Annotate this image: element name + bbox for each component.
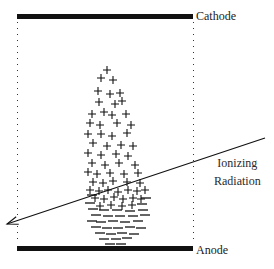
radiation-label-line1: Ionizing <box>214 154 261 172</box>
positive-charge-icon <box>108 132 116 140</box>
positive-charge-icon <box>110 193 118 201</box>
positive-charge-icon <box>128 201 136 209</box>
positive-charge-icon <box>89 178 97 186</box>
positive-charge-icon <box>94 87 102 95</box>
positive-charge-icon <box>84 168 92 176</box>
positive-charge-icon <box>113 119 121 127</box>
positive-charge-icon <box>106 90 114 98</box>
positive-charge-icon <box>96 121 104 129</box>
positive-charge-icon <box>141 186 149 194</box>
positive-charge-icon <box>129 194 137 202</box>
positive-charge-icon <box>137 195 145 203</box>
positive-charge-icon <box>116 89 124 97</box>
positive-charge-icon <box>89 139 97 147</box>
anode-label: Anode <box>196 244 228 256</box>
positive-charge-icon <box>123 129 131 137</box>
positive-charge-icon <box>133 187 141 195</box>
positive-charge-icon <box>131 161 139 169</box>
positive-charge-icon <box>99 179 107 187</box>
positive-charge-icon <box>93 170 101 178</box>
positive-charge-icon <box>95 98 103 106</box>
anode-plate <box>17 246 193 251</box>
positive-charge-icon <box>103 142 111 150</box>
positive-charge-icon <box>106 169 114 177</box>
ionization-chamber-diagram: Cathode Anode Ionizing Radiation <box>0 0 274 269</box>
positive-charge-icon <box>109 177 117 185</box>
positive-ion-cloud <box>84 66 149 210</box>
radiation-label-line2: Radiation <box>214 172 261 190</box>
positive-charge-icon <box>118 97 126 105</box>
positive-charge-icon <box>117 141 125 149</box>
positive-charge-icon <box>97 74 105 82</box>
positive-charge-icon <box>129 142 137 150</box>
cathode-plate <box>17 14 193 19</box>
positive-charge-icon <box>122 110 130 118</box>
positive-charge-icon <box>84 149 92 157</box>
positive-charge-icon <box>124 152 132 160</box>
positive-charge-icon <box>84 130 92 138</box>
positive-charge-icon <box>108 111 116 119</box>
positive-charge-icon <box>134 169 142 177</box>
positive-charge-icon <box>124 186 132 194</box>
positive-charge-icon <box>114 188 122 196</box>
positive-charge-icon <box>111 100 119 108</box>
positive-charge-icon <box>101 161 109 169</box>
positive-charge-icon <box>112 150 120 158</box>
positive-charge-icon <box>88 110 96 118</box>
positive-charge-icon <box>127 121 135 129</box>
positive-charge-icon <box>115 159 123 167</box>
positive-charge-icon <box>119 195 127 203</box>
positive-charge-icon <box>118 202 126 210</box>
ionizing-radiation-label: Ionizing Radiation <box>214 154 261 190</box>
positive-charge-icon <box>120 170 128 178</box>
positive-charge-icon <box>97 151 105 159</box>
positive-charge-icon <box>88 159 96 167</box>
positive-charge-icon <box>109 76 117 84</box>
positive-charge-icon <box>100 195 108 203</box>
positive-charge-icon <box>86 186 94 194</box>
positive-charge-icon <box>103 66 111 74</box>
cathode-label: Cathode <box>196 10 236 22</box>
positive-charge-icon <box>107 201 115 209</box>
positive-charge-icon <box>100 108 108 116</box>
positive-charge-icon <box>86 119 94 127</box>
diagram-canvas <box>0 0 274 269</box>
positive-charge-icon <box>97 130 105 138</box>
